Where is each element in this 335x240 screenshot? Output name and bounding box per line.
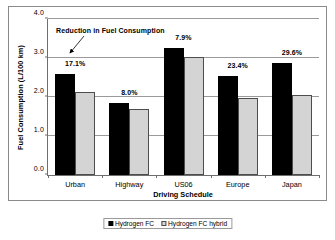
x-tick-mark: [265, 175, 266, 178]
bar: [272, 63, 292, 175]
bar: [184, 57, 204, 175]
bar: [129, 109, 149, 175]
y-axis-title-text: Fuel Consumption (L/100 km): [16, 45, 25, 150]
y-tick-label: 1.0: [34, 126, 44, 133]
legend-label: Hydrogen FC: [115, 220, 154, 227]
bar: [75, 92, 95, 175]
bar: [238, 98, 258, 175]
x-tick-label: Highway: [102, 180, 156, 189]
y-axis-title: Fuel Consumption (L/100 km): [14, 19, 26, 176]
y-tick-label: 2.0: [34, 87, 44, 94]
x-tick-label: Europe: [211, 180, 265, 189]
legend-label: Hydrogen FC hybrid: [168, 220, 227, 227]
bar-group: 17.1%Urban: [48, 19, 102, 175]
x-tick-mark: [48, 175, 49, 178]
bar: [109, 103, 129, 175]
bar-group: 8.0%Highway: [102, 19, 156, 175]
legend-swatch: [161, 221, 166, 226]
annotation-label: Reduction in Fuel Consumption: [56, 27, 165, 34]
y-tick-label: 0.0: [34, 165, 44, 172]
bar-group: 23.4%Europe: [211, 19, 265, 175]
bar: [55, 74, 75, 175]
x-tick-mark: [102, 175, 103, 178]
x-tick-mark: [211, 175, 212, 178]
bar: [164, 48, 184, 175]
chart-legend: Hydrogen FCHydrogen FC hybrid: [103, 218, 232, 229]
bar: [218, 76, 238, 175]
bar: [292, 95, 312, 175]
x-tick-label: Urban: [48, 180, 102, 189]
legend-item: Hydrogen FC hybrid: [161, 220, 227, 227]
y-tick-label: 3.0: [34, 48, 44, 55]
legend-item: Hydrogen FC: [108, 220, 154, 227]
bar-group: 7.9%US06: [156, 19, 210, 175]
x-tick-label: Japan: [265, 180, 319, 189]
bar-groups: 17.1%Urban8.0%Highway7.9%US0623.4%Europe…: [48, 19, 319, 175]
x-tick-mark: [319, 175, 320, 178]
chart-figure: Fuel Consumption (L/100 km) 0.01.02.03.0…: [0, 0, 335, 240]
bar-group: 29.6%Japan: [265, 19, 319, 175]
x-axis-title: Driving Schedule: [47, 190, 319, 199]
x-tick-mark: [156, 175, 157, 178]
plot-area: 0.01.02.03.04.0 17.1%Urban8.0%Highway7.9…: [47, 19, 319, 176]
y-tick-label: 4.0: [34, 9, 44, 16]
legend-swatch: [108, 221, 113, 226]
x-tick-label: US06: [156, 180, 210, 189]
